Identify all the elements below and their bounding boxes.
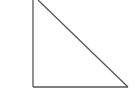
triangle-hypotenuse	[38, 0, 128, 87]
diagram-canvas	[0, 0, 135, 99]
